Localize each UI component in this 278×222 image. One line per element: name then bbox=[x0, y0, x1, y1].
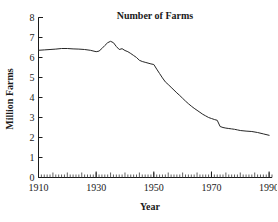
x-axis-title: Year bbox=[140, 201, 161, 212]
x-tick-label: 1930 bbox=[86, 182, 106, 193]
y-tick-label: 1 bbox=[30, 152, 35, 163]
x-axis-minor-ticks bbox=[39, 173, 273, 178]
chart-figure: Number of Farms Million Farms Year 01234… bbox=[0, 0, 277, 222]
y-axis-title: Million Farms bbox=[4, 68, 15, 129]
chart-plot-area: Number of Farms Million Farms Year 01234… bbox=[0, 0, 277, 222]
x-tick-label: 1970 bbox=[201, 182, 221, 193]
x-tick-label: 1910 bbox=[29, 182, 49, 193]
y-tick-label: 8 bbox=[30, 12, 35, 23]
y-tick-label: 4 bbox=[30, 92, 35, 103]
y-tick-label: 6 bbox=[30, 52, 35, 63]
chart-title: Number of Farms bbox=[117, 10, 194, 21]
y-tick-label: 5 bbox=[30, 72, 35, 83]
y-axis-ticks: 012345678 bbox=[30, 12, 43, 183]
y-tick-label: 7 bbox=[30, 32, 35, 43]
y-tick-label: 3 bbox=[30, 112, 35, 123]
x-tick-label: 1950 bbox=[144, 182, 164, 193]
data-series-line bbox=[39, 41, 270, 135]
x-axis-ticks: 19101930195019701990 bbox=[29, 172, 278, 193]
y-tick-label: 2 bbox=[30, 132, 35, 143]
x-tick-label: 1990 bbox=[259, 182, 277, 193]
